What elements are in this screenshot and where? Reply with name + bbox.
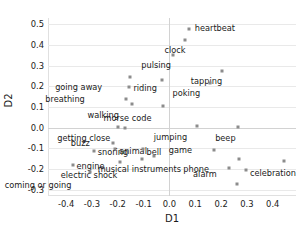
data-point-marker bbox=[141, 148, 144, 151]
data-point-marker bbox=[184, 38, 187, 41]
data-point-label: riding bbox=[133, 84, 157, 93]
gridline-horizontal bbox=[48, 66, 296, 67]
data-point-marker bbox=[118, 161, 121, 164]
data-point-marker bbox=[88, 171, 91, 174]
data-point-marker bbox=[131, 102, 134, 105]
data-point-marker bbox=[220, 70, 223, 73]
y-tick-label: 0.0 bbox=[31, 123, 44, 132]
y-tick-label: 0.5 bbox=[31, 20, 44, 29]
x-tick-label: -0.3 bbox=[84, 200, 100, 209]
data-point-marker bbox=[282, 160, 285, 163]
y-axis-label: D2 bbox=[3, 81, 14, 121]
x-tick-label: 0.1 bbox=[189, 200, 202, 209]
data-point-label: breathing bbox=[45, 95, 85, 104]
data-point-marker bbox=[153, 154, 156, 157]
data-point-label: celebration bbox=[250, 169, 296, 178]
data-point-label: snoring bbox=[98, 148, 129, 157]
data-point-marker bbox=[161, 79, 164, 82]
data-point-marker bbox=[71, 163, 74, 166]
data-point-marker bbox=[162, 104, 165, 107]
data-point-marker bbox=[209, 82, 212, 85]
data-point-marker bbox=[129, 75, 132, 78]
data-point-marker bbox=[212, 149, 215, 152]
data-point-marker bbox=[195, 125, 198, 128]
data-point-label: game bbox=[169, 146, 192, 155]
x-axis-label: D1 bbox=[48, 213, 296, 224]
x-tick-label: -0.1 bbox=[135, 200, 151, 209]
y-axis-tick-labels: 0.50.40.30.20.10.0-0.1-0.2-0.3 bbox=[14, 18, 44, 196]
data-point-marker bbox=[237, 126, 240, 129]
data-point-marker bbox=[117, 125, 120, 128]
data-point-label: heartbeat bbox=[195, 24, 235, 33]
x-tick-label: -0.4 bbox=[58, 200, 74, 209]
y-tick-label: 0.2 bbox=[31, 82, 44, 91]
y-tick-label: -0.1 bbox=[28, 144, 44, 153]
data-point-label: tapping bbox=[191, 77, 222, 86]
data-point-marker bbox=[187, 28, 190, 31]
data-point-marker bbox=[111, 141, 114, 144]
data-point-marker bbox=[244, 169, 247, 172]
data-point-marker bbox=[237, 158, 240, 161]
data-point-label: jumping bbox=[154, 133, 187, 142]
data-point-label: poking bbox=[172, 89, 200, 98]
x-tick-label: -0.2 bbox=[110, 200, 126, 209]
gridline-horizontal bbox=[48, 24, 296, 25]
y-tick-label: 0.3 bbox=[31, 61, 44, 70]
x-axis-tick-labels: -0.4-0.3-0.2-0.10.00.10.20.30.4 bbox=[48, 200, 296, 212]
data-point-label: beep bbox=[215, 134, 235, 143]
data-point-marker bbox=[92, 149, 95, 152]
data-point-marker bbox=[125, 97, 128, 100]
x-tick-label: 0.4 bbox=[266, 200, 279, 209]
data-point-label: pulsing bbox=[141, 61, 171, 70]
x-tick-label: 0.2 bbox=[214, 200, 227, 209]
plot-area: heartbeatclockpulsingtappinggoing awayri… bbox=[48, 18, 296, 196]
x-tick-label: 0.3 bbox=[240, 200, 253, 209]
data-point-marker bbox=[172, 53, 175, 56]
data-point-marker bbox=[228, 167, 231, 170]
data-point-label: going away bbox=[55, 83, 102, 92]
plot-frame-bottom bbox=[48, 195, 296, 196]
data-point-label: buzz bbox=[71, 139, 90, 148]
y-tick-label: 0.4 bbox=[31, 40, 44, 49]
data-point-marker bbox=[123, 126, 126, 129]
x-tick-label: 0.0 bbox=[163, 200, 176, 209]
data-point-label: musical instruments bbox=[98, 165, 181, 174]
data-point-label: alarm bbox=[193, 170, 217, 179]
data-point-marker bbox=[140, 158, 143, 161]
data-point-label: morse code bbox=[103, 114, 151, 123]
x-axis-zero-line bbox=[48, 128, 296, 129]
y-tick-label: 0.1 bbox=[31, 103, 44, 112]
data-point-marker bbox=[236, 182, 239, 185]
data-point-marker bbox=[128, 86, 131, 89]
data-point-label: coming or going bbox=[5, 181, 72, 190]
y-tick-label: -0.2 bbox=[28, 165, 44, 174]
data-point-label: clock bbox=[164, 46, 185, 55]
gridline-horizontal bbox=[48, 190, 296, 191]
scatter-plot-figure: D2 0.50.40.30.20.10.0-0.1-0.2-0.3 heartb… bbox=[0, 0, 303, 239]
gridline-horizontal bbox=[48, 107, 296, 108]
